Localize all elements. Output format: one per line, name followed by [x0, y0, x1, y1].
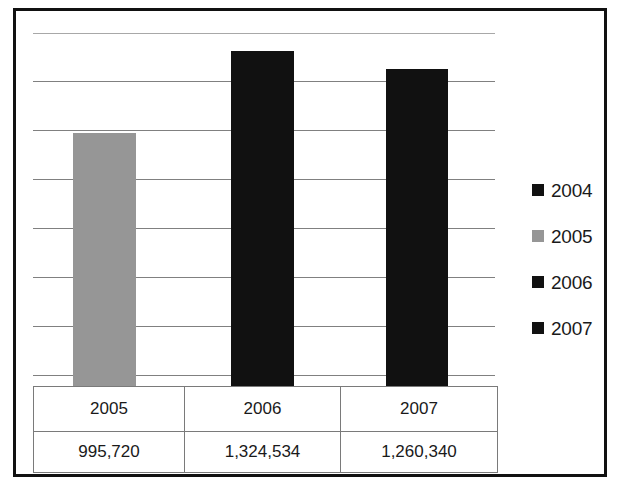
- bar-2006[interactable]: [231, 51, 294, 386]
- legend-label-2004: 2004: [551, 181, 592, 200]
- legend-item-2004[interactable]: 2004: [532, 167, 612, 213]
- table-cell-value-2007: 1,260,340: [341, 432, 498, 473]
- plot-area: [33, 22, 495, 386]
- legend-swatch-icon-2006: [532, 276, 544, 288]
- legend-swatch-icon-2004: [532, 184, 544, 196]
- table-row-categories: 2005 2006 2007: [34, 387, 498, 432]
- legend-item-2005[interactable]: 2005: [532, 213, 612, 259]
- legend-label-2007: 2007: [551, 319, 592, 338]
- chart-page: 2005 2006 2007 995,720 1,324,534 1,260,3…: [0, 0, 622, 485]
- chart-frame: 2005 2006 2007 995,720 1,324,534 1,260,3…: [13, 8, 607, 477]
- legend-label-2006: 2006: [551, 273, 592, 292]
- table-cell-category-2007: 2007: [341, 387, 498, 432]
- legend-label-2005: 2005: [551, 227, 592, 246]
- bar-2005[interactable]: [73, 133, 136, 386]
- legend: 2004 2005 2006 2007: [532, 167, 612, 351]
- bar-2007[interactable]: [386, 69, 448, 386]
- data-table: 2005 2006 2007 995,720 1,324,534 1,260,3…: [33, 386, 498, 473]
- table-cell-category-2005: 2005: [34, 387, 185, 432]
- legend-item-2007[interactable]: 2007: [532, 305, 612, 351]
- gridline-1400000: [33, 33, 495, 34]
- table-cell-value-2005: 995,720: [34, 432, 185, 473]
- legend-swatch-icon-2007: [532, 322, 544, 334]
- table-cell-category-2006: 2006: [185, 387, 341, 432]
- table-row-values: 995,720 1,324,534 1,260,340: [34, 432, 498, 473]
- legend-swatch-icon-2005: [532, 230, 544, 242]
- table-cell-value-2006: 1,324,534: [185, 432, 341, 473]
- legend-item-2006[interactable]: 2006: [532, 259, 612, 305]
